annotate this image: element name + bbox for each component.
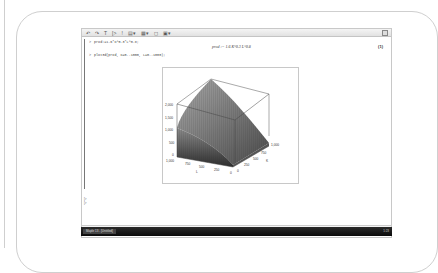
svg-text:1,000: 1,000 <box>165 128 173 132</box>
svg-text:0: 0 <box>230 171 232 175</box>
svg-text:250: 250 <box>244 163 250 167</box>
plot3d-output[interactable]: 2,000 1,500 1,000 500 0 1,000 750 500 25… <box>162 67 299 184</box>
svg-text:1,000: 1,000 <box>271 143 279 147</box>
worksheet[interactable]: >prod:=1.6*K^0.3*L^0.8; prod := 1.6 K^0.… <box>82 37 391 217</box>
plot-button[interactable]: ▣▾ <box>162 30 172 36</box>
insert-button[interactable]: ▤▾ <box>127 30 137 36</box>
maple-window: ↶ ↷ T [> ! ▤▾ ▦▾ ◻ ▣▾ >prod:=1.6*K^0.3*L… <box>81 28 392 238</box>
format-button[interactable]: ▦▾ <box>140 30 150 36</box>
taskbar-item-maple[interactable]: Maple 13 - [Untitled] <box>83 229 116 234</box>
execute-button[interactable]: ! <box>120 30 123 36</box>
svg-text:500: 500 <box>169 141 175 145</box>
window-icon[interactable] <box>382 30 388 36</box>
svg-text:500: 500 <box>199 165 205 169</box>
svg-text:750: 750 <box>261 151 267 155</box>
undo-button[interactable]: ↶ <box>85 30 91 36</box>
svg-text:L: L <box>196 170 198 174</box>
os-taskbar: Maple 13 - [Untitled] 1:23 <box>81 227 392 236</box>
toolbar: ↶ ↷ T [> ! ▤▾ ▦▾ ◻ ▣▾ <box>82 29 391 37</box>
math-mode-button[interactable]: [> <box>111 30 117 36</box>
svg-text:K: K <box>266 159 269 163</box>
redo-button[interactable]: ↷ <box>94 30 100 36</box>
command-line-1[interactable]: >prod:=1.6*K^0.3*L^0.8; <box>89 40 139 44</box>
svg-text:0: 0 <box>172 153 174 157</box>
svg-text:1,500: 1,500 <box>165 116 173 120</box>
equation-label: (1) <box>378 44 383 49</box>
text-mode-button[interactable]: T <box>103 30 108 36</box>
collapsed-sections[interactable]: [>[> <box>84 197 87 205</box>
svg-text:1,000: 1,000 <box>166 159 174 163</box>
surface-plot-svg: 2,000 1,500 1,000 500 0 1,000 750 500 25… <box>163 68 298 183</box>
view-button[interactable]: ◻ <box>153 30 159 36</box>
svg-text:250: 250 <box>214 168 220 172</box>
page-border <box>4 0 5 248</box>
svg-text:2,000: 2,000 <box>165 103 173 107</box>
output-formula: prod := 1.6 K^0.3 L^0.8 <box>212 44 251 49</box>
svg-text:750: 750 <box>185 162 191 166</box>
system-tray-clock: 1:23 <box>383 229 389 234</box>
svg-text:500: 500 <box>253 157 259 161</box>
svg-text:0: 0 <box>237 169 239 173</box>
command-line-2[interactable]: >plot3d(prod, K=0..1000, L=0..1000); <box>89 53 165 57</box>
execution-group-bracket <box>84 39 85 189</box>
